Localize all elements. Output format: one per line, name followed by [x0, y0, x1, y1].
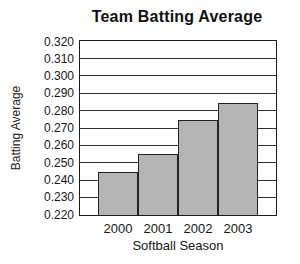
x-tick-label-2003: 2003	[213, 221, 263, 236]
bar-chart-figure: Team Batting Average Batting Average Sof…	[0, 0, 300, 264]
bar-2003	[218, 103, 258, 215]
bar-2002	[178, 120, 218, 215]
plot-area	[79, 40, 277, 216]
y-axis-title: Batting Average	[9, 86, 23, 171]
chart-title: Team Batting Average	[62, 8, 292, 26]
gridline	[80, 75, 276, 76]
y-tick-label: 0.300	[36, 70, 74, 82]
bar-2000	[98, 172, 138, 215]
gridline	[80, 93, 276, 94]
y-tick-label: 0.240	[36, 174, 74, 186]
y-tick-label: 0.270	[36, 122, 74, 134]
y-tick-label: 0.260	[36, 139, 74, 151]
y-tick-label: 0.280	[36, 105, 74, 117]
y-tick-label: 0.320	[36, 36, 74, 48]
y-tick-label: 0.220	[36, 209, 74, 221]
gridline	[80, 58, 276, 59]
bar-2001	[138, 154, 178, 215]
x-axis-title: Softball Season	[78, 238, 278, 253]
y-tick-label: 0.310	[36, 53, 74, 65]
y-tick-label: 0.230	[36, 191, 74, 203]
y-tick-label: 0.250	[36, 157, 74, 169]
y-tick-label: 0.290	[36, 87, 74, 99]
